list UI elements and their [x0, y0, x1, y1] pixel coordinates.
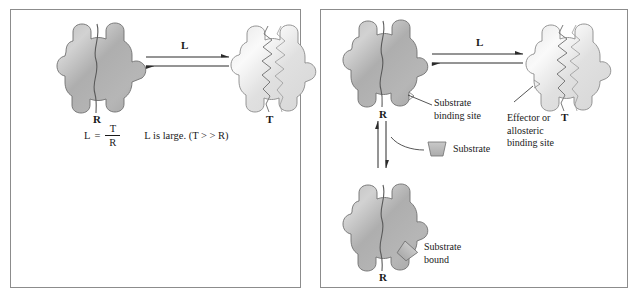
callout-effector-site-line2: allosteric	[507, 125, 554, 138]
equation-fraction: T R	[105, 123, 120, 148]
callout-substrate-bound-line1: Substrate	[424, 241, 461, 254]
equilibrium-constant-equation: L = T R L is large. (T > > R)	[84, 123, 229, 148]
left-arrow-label-L: L	[181, 39, 188, 52]
right-arrow-label-L: L	[476, 36, 483, 49]
equation-note: L is large. (T > > R)	[144, 130, 228, 141]
equation-numerator: T	[106, 123, 120, 135]
callout-effector-allosteric-binding-site: Effector or allosteric binding site	[507, 112, 554, 150]
callout-substrate-binding-site-line1: Substrate	[434, 97, 481, 110]
equation-equals-sign: =	[94, 130, 100, 141]
equation-lhs: L	[84, 130, 90, 141]
right-r-bound-state-label: R	[379, 271, 387, 284]
right-r-state-label: R	[379, 108, 387, 121]
callout-effector-site-line1: Effector or	[507, 112, 554, 125]
figure-root: R T L L = T R L is large. (T > > R) R T …	[0, 0, 638, 296]
callout-substrate-legend: Substrate	[453, 143, 490, 156]
callout-effector-site-line3: binding site	[507, 137, 554, 150]
callout-substrate-bound-line2: bound	[424, 254, 461, 267]
right-t-state-label: T	[561, 111, 569, 124]
callout-substrate-binding-site-line2: binding site	[434, 110, 481, 123]
callout-substrate-bound: Substrate bound	[424, 241, 461, 266]
callout-substrate-binding-site: Substrate binding site	[434, 97, 481, 122]
equation-denominator: R	[105, 136, 120, 148]
panel-left	[10, 9, 301, 288]
left-t-state-label: T	[266, 113, 274, 126]
